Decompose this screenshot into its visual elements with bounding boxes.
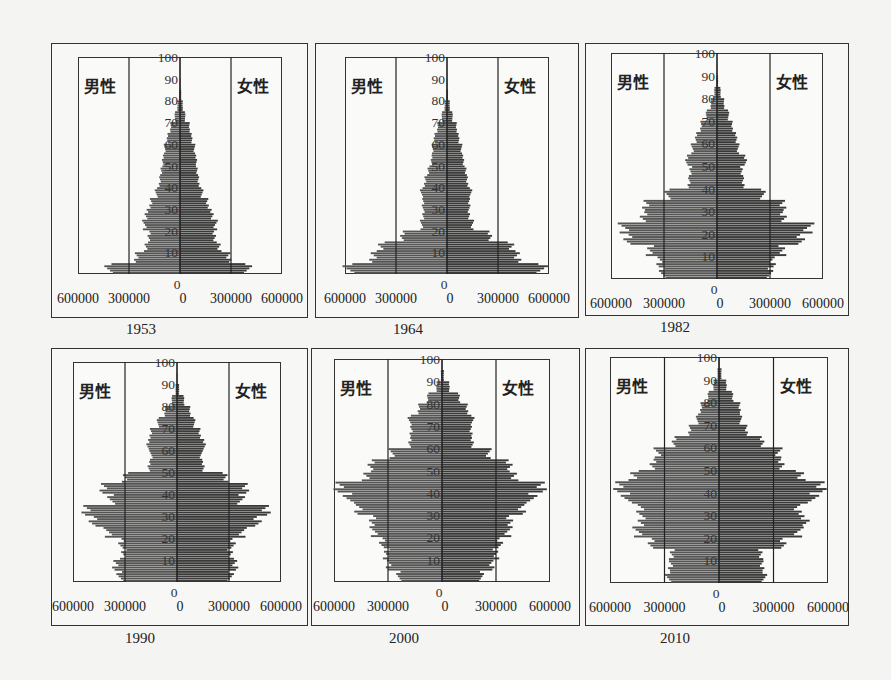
pyramid-bars-2010: 1020304050607080901000	[0, 0, 891, 680]
y-tick-label: 60	[704, 440, 718, 455]
y-tick-label: 0	[713, 586, 720, 601]
y-tick-label: 10	[704, 553, 718, 568]
y-tick-label: 40	[704, 486, 718, 501]
x-tick-label: 600000	[807, 600, 849, 616]
y-tick-label: 90	[704, 373, 718, 388]
x-tick-label: 300000	[644, 600, 686, 616]
y-tick-label: 80	[704, 395, 718, 410]
pyramid-year-caption: 2010	[635, 630, 715, 647]
male-label: 男性	[616, 373, 648, 397]
y-tick-label: 100	[697, 350, 718, 365]
x-tick-label: 300000	[753, 600, 795, 616]
y-tick-label: 70	[704, 418, 718, 433]
x-tick-label: 0	[719, 600, 726, 616]
y-tick-label: 20	[704, 531, 718, 546]
y-tick-label: 50	[704, 463, 718, 478]
x-tick-label: 600000	[589, 600, 631, 616]
y-tick-label: 30	[704, 508, 718, 523]
female-label: 女性	[780, 373, 812, 397]
